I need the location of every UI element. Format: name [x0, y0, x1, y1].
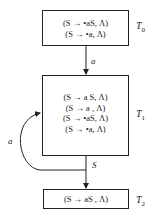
item: (S → •a, Λ): [43, 29, 128, 40]
state-t2: (S → aS , Λ): [43, 189, 129, 209]
item: (S → aS , Λ): [44, 194, 128, 205]
item: (S → a , Λ): [43, 103, 128, 114]
edge-label-t1-loop: a: [8, 136, 13, 146]
item: (S → •aS, Λ): [43, 18, 128, 29]
item: (S → •a, Λ): [43, 124, 128, 135]
state-label-t1: T1: [136, 108, 145, 122]
state-label-t2: T2: [136, 194, 145, 208]
item: (S → a S, Λ): [43, 92, 128, 103]
edge-label-t0-t1: a: [91, 56, 96, 66]
state-t1: (S → a S, Λ) (S → a , Λ) (S → •aS, Λ) (S…: [42, 75, 129, 156]
item: (S → •aS, Λ): [43, 113, 128, 124]
edge-label-t1-t2: S: [92, 160, 97, 170]
state-t0: (S → •aS, Λ) (S → •a, Λ): [42, 10, 129, 46]
state-label-t0: T0: [136, 20, 145, 34]
